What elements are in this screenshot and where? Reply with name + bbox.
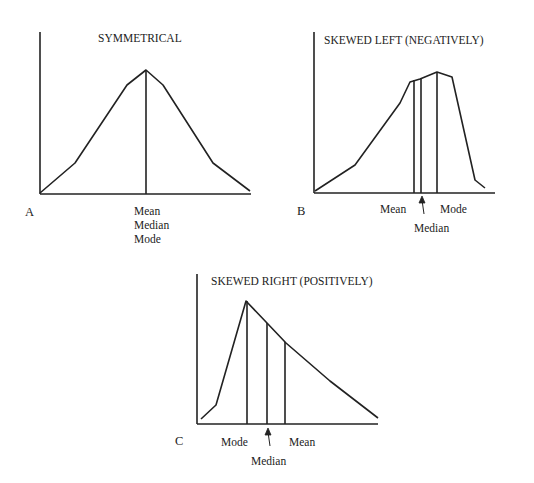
panel-a-title: SYMMETRICAL <box>98 33 182 45</box>
panel-a-graph <box>40 32 251 194</box>
panel-b-arrowhead-icon <box>419 196 425 203</box>
panel-b-median-label: Median <box>414 223 449 235</box>
panel-a-mean-label: Mean <box>134 206 160 218</box>
panel-a-mode-label: Mode <box>134 234 161 246</box>
panel-c-letter: C <box>175 435 183 448</box>
panel-b-curve <box>315 72 485 191</box>
panel-a-letter: A <box>25 206 34 219</box>
panel-a-curve <box>40 70 250 193</box>
distribution-diagrams <box>0 0 534 483</box>
panel-c-mode-label: Mode <box>221 437 248 449</box>
panel-c-median-label: Median <box>251 456 286 468</box>
panel-b-graph <box>314 32 495 214</box>
panel-b-title: SKEWED LEFT (NEGATIVELY) <box>324 35 484 47</box>
panel-c-curve <box>201 301 378 419</box>
panel-b-mean-label: Mean <box>380 204 406 216</box>
panel-c-arrowhead-icon <box>265 428 271 435</box>
panel-b-letter: B <box>297 205 305 218</box>
panel-c-mean-label: Mean <box>289 437 315 449</box>
panel-c-graph <box>197 274 378 446</box>
panel-c-title: SKEWED RIGHT (POSITIVELY) <box>211 276 373 288</box>
panel-b-mode-label: Mode <box>440 204 467 216</box>
panel-a-median-label: Median <box>134 220 169 232</box>
